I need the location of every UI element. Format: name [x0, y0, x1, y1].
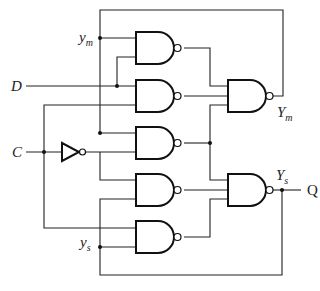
nand-gate-ys [228, 174, 273, 206]
junction-node [208, 141, 212, 145]
wire-g4-bottom [100, 199, 136, 247]
junction-node [115, 84, 119, 88]
label-ym-node: ym [77, 29, 93, 48]
inversion-bubble [174, 140, 181, 147]
circuit-diagram: ym D C ys Ym Ys Q [0, 0, 320, 291]
inverter-gate [62, 143, 86, 161]
nand-gate-g4 [136, 174, 181, 206]
nand-gate-g5 [136, 221, 181, 253]
junction-node [98, 131, 102, 135]
nand-gate-g2 [136, 80, 181, 112]
inversion-bubble [174, 187, 181, 194]
label-ys-node: ys [78, 234, 91, 253]
label-d-input: D [10, 78, 22, 94]
nand-gate-g1 [136, 32, 181, 64]
inversion-bubble [174, 45, 181, 52]
wire-g1-ym [184, 48, 228, 86]
inversion-bubble [174, 234, 181, 241]
nand-gate-ym [228, 80, 273, 112]
wire-g3-ym [210, 105, 228, 143]
label-q-output: Q [307, 182, 318, 198]
wire-c-g5 [44, 152, 136, 228]
wire-d-g1 [117, 57, 136, 86]
junction-node [98, 36, 102, 40]
junction-node [280, 188, 284, 192]
feedback-wire-ym [100, 10, 283, 133]
wire-c-g2 [44, 105, 136, 152]
inversion-bubble [266, 93, 273, 100]
junction-node [98, 245, 102, 249]
nand-gate-g3 [136, 127, 181, 159]
inversion-bubble [174, 93, 181, 100]
inversion-bubble [80, 149, 86, 155]
inversion-bubble [266, 187, 273, 194]
wire-cbar-g4 [100, 152, 136, 180]
label-c-input: C [12, 144, 23, 160]
wire-g3-ys [210, 143, 228, 180]
junction-node [42, 150, 46, 154]
wire-g5-ys [184, 199, 228, 237]
label-ys-output: Ys [276, 167, 288, 186]
label-ym-output: Ym [277, 104, 293, 123]
